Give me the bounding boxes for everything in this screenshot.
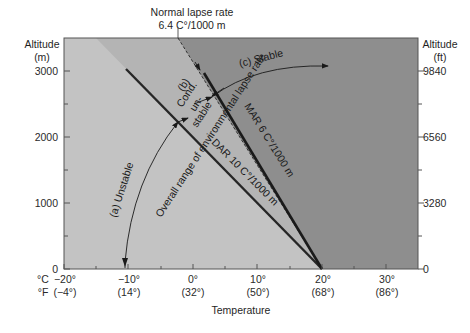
right-axis <box>418 71 424 269</box>
left-tick-1000: 1000 <box>35 197 59 209</box>
c-tick-30: 30° <box>379 273 395 285</box>
right-tick-6560: 6560 <box>423 131 447 143</box>
normal-lapse-value: 6.4 C°/1000 m <box>158 19 225 31</box>
c-tick-m20: −20° <box>54 273 76 285</box>
right-axis-label: Altitude <box>422 38 457 50</box>
right-tick-9840: 9840 <box>423 65 447 77</box>
c-tick-10: 10° <box>250 273 266 285</box>
c-tick-0: 0° <box>188 273 198 285</box>
f-tick-86: (86°) <box>376 286 399 298</box>
left-axis-label: Altitude <box>24 38 59 50</box>
f-tick-14: (14°) <box>118 286 141 298</box>
celsius-unit: °C <box>37 273 49 285</box>
right-tick-0: 0 <box>423 263 429 275</box>
f-tick-m4: (−4°) <box>53 286 76 298</box>
f-tick-68: (68°) <box>312 286 335 298</box>
left-tick-3000: 3000 <box>35 65 59 77</box>
right-axis-unit: (ft) <box>434 51 447 63</box>
temperature-axis-title: Temperature <box>212 304 271 316</box>
f-tick-32: (32°) <box>182 286 205 298</box>
lapse-rate-diagram: Normal lapse rate 6.4 C°/1000 m Altitude… <box>0 0 470 333</box>
fahrenheit-unit: °F <box>38 286 49 298</box>
plot-area <box>64 38 418 269</box>
c-tick-m10: −10° <box>118 273 140 285</box>
c-tick-20: 20° <box>315 273 331 285</box>
normal-lapse-title: Normal lapse rate <box>151 6 234 18</box>
left-axis-unit: (m) <box>34 51 50 63</box>
left-tick-2000: 2000 <box>35 131 59 143</box>
f-tick-50: (50°) <box>247 286 270 298</box>
right-tick-3280: 3280 <box>423 197 447 209</box>
